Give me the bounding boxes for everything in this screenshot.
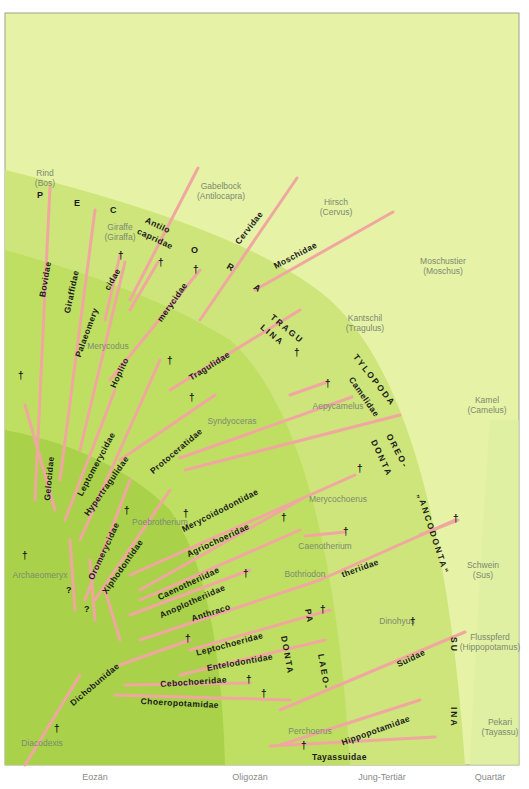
extinct-dagger-icon: † [453, 513, 459, 524]
animal-common: Kamel [475, 395, 499, 405]
animal-common: Gabelbock [201, 181, 242, 191]
fossil-label-caenotherium: Caenotherium [298, 541, 351, 551]
fossil-label-merycodus: Merycodus [87, 341, 129, 351]
family-tayassuidae: Tayassuidae [312, 752, 367, 762]
animal-genus: (Sus) [473, 570, 493, 580]
animal-label-flusspferd: Flusspferd(Hippopotamus) [460, 632, 520, 652]
extinct-dagger-icon: † [243, 568, 249, 579]
extinct-dagger-icon: † [18, 370, 24, 381]
extinct-dagger-icon: † [301, 740, 307, 751]
uncertain-question-mark: ? [66, 585, 72, 595]
group-suina-line2: INA [449, 707, 459, 728]
animal-label-rind: Rind(Bos) [35, 168, 55, 188]
animal-genus: (Camelus) [467, 405, 506, 415]
animal-genus: (Tayassu) [482, 727, 519, 737]
animal-genus: (Moschus) [423, 266, 463, 276]
animal-genus: (Bos) [35, 178, 55, 188]
extinct-dagger-icon: † [325, 378, 331, 389]
extinct-dagger-icon: † [185, 633, 191, 644]
fossil-label-bothriodon: Bothriodon [284, 569, 325, 579]
extinct-dagger-icon: † [281, 512, 287, 523]
era-label-oligocene: Oligozän [232, 772, 268, 782]
animal-label-pekari: Pekari(Tayassu) [482, 717, 519, 737]
extinct-dagger-icon: † [118, 250, 124, 261]
fossil-label-poebrotherium: Poebrotherium [132, 517, 188, 527]
animal-common: Moschustier [420, 256, 466, 266]
animal-common: Giraffe [107, 222, 132, 232]
fossil-label-syndyoceras: Syndyoceras [207, 416, 256, 426]
extinct-dagger-icon: † [261, 688, 267, 699]
extinct-dagger-icon: † [193, 264, 199, 275]
extinct-dagger-icon: † [22, 550, 28, 561]
animal-genus: (Antilocapra) [197, 191, 245, 201]
fossil-label-aepycamelus: Aepycamelus [312, 401, 363, 411]
extinct-dagger-icon: † [189, 392, 195, 403]
animal-genus: (Cervus) [320, 207, 353, 217]
animal-common: Hirsch [324, 197, 348, 207]
phylogeny-diagram [0, 0, 529, 789]
animal-genus: (Giraffa) [104, 232, 135, 242]
fossil-label-archaeomeryx: Archaeomeryx [13, 570, 68, 580]
animal-label-moschustier: Moschustier(Moschus) [420, 256, 466, 276]
animal-label-giraffe: Giraffe(Giraffa) [104, 222, 135, 242]
extinct-dagger-icon: † [320, 604, 326, 615]
fossil-label-diacodexis: Diacodexis [21, 738, 63, 748]
fossil-label-merycochoerus: Merycochoerus [309, 494, 367, 504]
extinct-dagger-icon: † [246, 674, 252, 685]
animal-common: Schwein [467, 560, 499, 570]
group-pecora-letter-c: C [110, 205, 117, 215]
extinct-dagger-icon: † [124, 505, 130, 516]
animal-common: Rind [36, 168, 53, 178]
extinct-dagger-icon: † [158, 257, 164, 268]
animal-label-hirsch: Hirsch(Cervus) [320, 197, 353, 217]
group-pecora-letter-e: E [74, 198, 80, 208]
extinct-dagger-icon: † [167, 355, 173, 366]
extinct-dagger-icon: † [357, 463, 363, 474]
animal-common: Flusspferd [470, 632, 510, 642]
extinct-dagger-icon: † [294, 347, 300, 358]
era-label-neogene: Jung-Tertiär [358, 772, 406, 782]
uncertain-question-mark: ? [84, 604, 90, 614]
animal-label-kamel: Kamel(Camelus) [467, 395, 506, 415]
animal-genus: (Hippopotamus) [460, 642, 520, 652]
era-label-quaternary: Quartär [475, 772, 506, 782]
extinct-dagger-icon: † [183, 508, 189, 519]
group-pecora-letter-o: O [191, 245, 198, 255]
group-suina-line1: SU [449, 637, 459, 653]
animal-genus: (Tragulus) [346, 323, 384, 333]
extinct-dagger-icon: † [410, 616, 416, 627]
extinct-dagger-icon: † [343, 526, 349, 537]
animal-label-schwein: Schwein(Sus) [467, 560, 499, 580]
animal-common: Kantschil [348, 313, 383, 323]
group-pecora-letter-p: P [37, 190, 43, 200]
era-label-eocene: Eozän [82, 772, 108, 782]
extinct-dagger-icon: † [54, 723, 60, 734]
animal-label-gabelbock: Gabelbock(Antilocapra) [197, 181, 245, 201]
animal-label-kantschil: Kantschil(Tragulus) [346, 313, 384, 333]
animal-common: Pekari [488, 717, 512, 727]
fossil-label-perchoerus: Perchoerus [288, 726, 331, 736]
